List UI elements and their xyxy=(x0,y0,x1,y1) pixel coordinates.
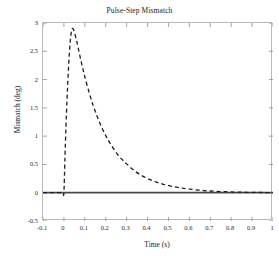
x-tick-label: 0.6 xyxy=(184,224,192,231)
x-tick-label: 0.5 xyxy=(163,224,171,231)
x-tick-label: 0.9 xyxy=(247,224,255,231)
x-tick-label: 0.2 xyxy=(101,224,109,231)
x-tick-label: 0.8 xyxy=(226,224,234,231)
y-tick-label: -0.5 xyxy=(10,217,38,224)
y-axis-label: Mismatch (deg) xyxy=(13,55,22,165)
x-tick-label: 0.3 xyxy=(122,224,130,231)
chart-title: Pulse-Step Mismatch xyxy=(0,6,279,15)
plot-area xyxy=(42,22,272,220)
figure-pulse-step-mismatch: Pulse-Step Mismatch -0.500.511.522.53 -0… xyxy=(0,0,279,259)
x-tick-marks xyxy=(43,23,273,221)
plot-canvas xyxy=(43,23,273,221)
x-tick-label: 0.4 xyxy=(142,224,150,231)
x-tick-label: 0.1 xyxy=(80,224,88,231)
y-tick-marks xyxy=(43,23,273,221)
y-tick-label: 3 xyxy=(10,19,38,26)
y-tick-label: 2.5 xyxy=(10,47,38,54)
x-tick-label: 0.7 xyxy=(205,224,213,231)
x-tick-label: 1 xyxy=(270,224,273,231)
x-tick-label: -0.1 xyxy=(37,224,47,231)
mismatch-curve xyxy=(43,28,273,195)
x-tick-label: 0 xyxy=(61,224,64,231)
y-tick-label: 0 xyxy=(10,188,38,195)
x-axis-label: Time (s) xyxy=(42,240,272,249)
